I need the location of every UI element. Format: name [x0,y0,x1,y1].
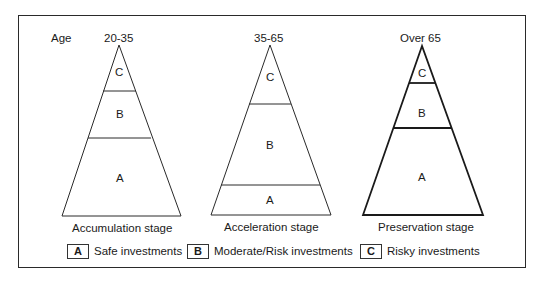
segment-label-a: A [266,195,274,207]
segment-label-a: A [418,172,426,184]
legend-item-risky: C Risky investments [360,243,480,259]
stage-label-accumulation: Accumulation stage [72,223,172,235]
segment-label-b: B [116,109,124,121]
segment-label-c: C [266,72,274,84]
legend-item-moderate: B Moderate/Risk investments [187,243,353,259]
legend-key-b: B [187,244,209,259]
age-range-accumulation: 20-35 [104,33,133,45]
legend-label-safe: Safe investments [94,245,182,257]
segment-label-b: B [266,140,274,152]
segment-label-a: A [116,173,124,185]
legend-key-a: A [67,244,89,259]
age-label: Age [51,33,71,45]
stage-label-preservation: Preservation stage [378,222,474,234]
segment-label-c: C [418,68,426,80]
segment-label-b: B [418,108,426,120]
legend-item-safe: A Safe investments [67,243,182,259]
stage-label-acceleration: Acceleration stage [224,222,319,234]
age-range-preservation: Over 65 [400,33,441,45]
legend-key-c: C [360,244,382,259]
segment-label-c: C [115,67,123,79]
age-range-acceleration: 35-65 [254,33,283,45]
legend-label-risky: Risky investments [387,245,480,257]
legend-label-moderate: Moderate/Risk investments [214,245,353,257]
